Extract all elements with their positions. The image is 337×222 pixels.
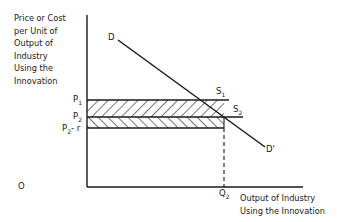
s2-sub: 2 bbox=[238, 109, 242, 116]
p1-label: P1 bbox=[73, 94, 82, 106]
s1-sub: 1 bbox=[221, 91, 225, 98]
demand-start-label: D bbox=[108, 32, 115, 42]
s2-label: S2 bbox=[233, 104, 242, 116]
q2-main: Q bbox=[219, 188, 226, 198]
y-axis-label: Price or Cost per Unit of Output of Indu… bbox=[14, 12, 89, 88]
x-axis-label: Output of Industry Using the Innovation bbox=[240, 192, 325, 217]
q2-sub: 2 bbox=[226, 193, 230, 200]
p2-sub: 2 bbox=[78, 116, 82, 123]
demand-curve bbox=[118, 40, 265, 147]
origin-label: O bbox=[18, 181, 25, 191]
y-axis-label-line: Output of bbox=[14, 37, 89, 50]
y-axis-label-line: Industry bbox=[14, 50, 89, 63]
p1-sub: 1 bbox=[78, 99, 82, 106]
lower-hatched-band bbox=[87, 117, 224, 128]
p2-label: P2 bbox=[73, 111, 82, 123]
y-axis-label-line: Innovation bbox=[14, 75, 89, 88]
q2-label: Q2 bbox=[219, 188, 230, 200]
demand-end-label: D' bbox=[266, 144, 275, 154]
p2r-suffix: - r bbox=[71, 123, 80, 133]
y-axis-label-line: Using the bbox=[14, 62, 89, 75]
s1-label: S1 bbox=[216, 86, 225, 98]
x-axis-label-line: Using the Innovation bbox=[240, 205, 325, 218]
y-axis-label-line: Price or Cost bbox=[14, 12, 89, 25]
p2r-label: P2- r bbox=[62, 123, 80, 135]
y-axis-label-line: per Unit of bbox=[14, 25, 89, 38]
x-axis-label-line: Output of Industry bbox=[240, 192, 325, 205]
